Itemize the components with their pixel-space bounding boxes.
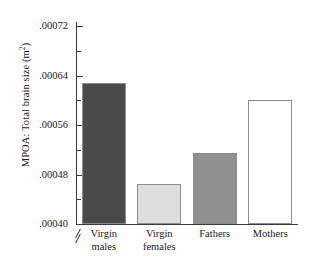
x-axis-tick-label: Mothers (243, 228, 299, 241)
y-axis-tick-label: .00072 (39, 21, 68, 31)
bar (248, 100, 292, 224)
x-axis-tick-label: Virginfemales (132, 228, 188, 253)
x-axis-tick-labels: VirginmalesVirginfemalesFathersMothers (76, 228, 298, 264)
bar-chart: MPOA: Total brain size (m2) .00072.00064… (0, 0, 312, 265)
x-axis-tick-label: Virginmales (76, 228, 132, 253)
y-axis-tick-label: .00048 (39, 170, 68, 180)
x-axis-tick-label: Fathers (187, 228, 243, 241)
bar (137, 184, 181, 224)
y-axis-tick-labels: .00072.00064.00056.00048.00040 (0, 22, 72, 225)
y-axis-tick-label: .00064 (39, 71, 68, 81)
bar (193, 153, 237, 224)
y-axis-tick-label: .00040 (39, 219, 68, 229)
bar (82, 83, 126, 224)
y-axis-tick-label: .00056 (39, 120, 68, 130)
plot-area (76, 22, 298, 225)
bar-series (76, 22, 298, 225)
